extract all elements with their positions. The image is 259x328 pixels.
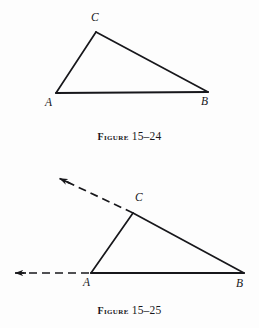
figure-15-25-drawing (0, 164, 259, 299)
segment-c-b (96, 32, 208, 92)
segment-a-c (56, 32, 96, 93)
vertex-label-b: B (201, 96, 208, 108)
caption-number: 15–25 (132, 304, 162, 316)
segment-a-b (56, 92, 208, 93)
figure-page: C A B Figure15–24 (0, 0, 259, 328)
segment-c-b (133, 213, 244, 273)
figure-15-24-drawing (0, 0, 259, 125)
vertex-label-c: C (91, 12, 99, 24)
caption-word: Figure (98, 131, 129, 142)
vertex-label-c: C (135, 192, 143, 204)
figure-15-24: C A B Figure15–24 (0, 0, 259, 160)
ray-ac-extended (60, 178, 134, 213)
vertex-label-a: A (83, 277, 90, 289)
figure-15-25: C A B Figure15–25 (0, 164, 259, 328)
figure-15-25-caption: Figure15–25 (0, 305, 259, 317)
figure-15-24-caption: Figure15–24 (0, 131, 259, 143)
vertex-label-b: B (236, 278, 243, 290)
caption-word: Figure (98, 305, 129, 316)
vertex-label-a: A (45, 97, 52, 109)
segment-a-c (91, 213, 133, 273)
caption-number: 15–24 (132, 130, 162, 142)
